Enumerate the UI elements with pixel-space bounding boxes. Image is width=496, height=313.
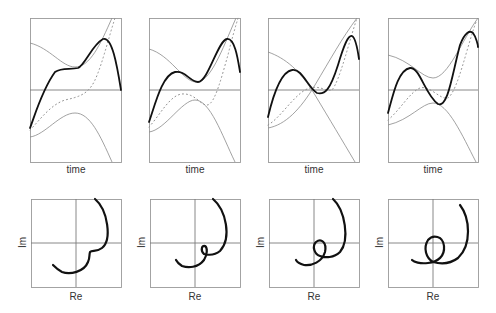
re-label-2: Re (175, 291, 215, 302)
im-label-3: Im (255, 237, 266, 248)
phase-panel-3 (269, 199, 360, 288)
im-label-1: Im (17, 237, 28, 248)
im-label-4: Im (374, 237, 385, 248)
time-label-4: time (403, 164, 463, 175)
phase-panel-4 (388, 199, 479, 288)
re-label-4: Re (413, 291, 453, 302)
im-label-2: Im (136, 237, 147, 248)
re-label-1: Re (56, 291, 96, 302)
time-panel-4 (388, 18, 479, 163)
time-label-1: time (46, 164, 106, 175)
phase-panel-2 (150, 199, 241, 288)
time-label-2: time (165, 164, 225, 175)
time-panel-1 (30, 18, 122, 163)
re-label-3: Re (294, 291, 334, 302)
time-panel-2 (149, 18, 241, 163)
figure-canvas (0, 0, 496, 313)
phase-panel-1 (31, 199, 122, 288)
time-label-3: time (284, 164, 344, 175)
time-panel-3 (268, 18, 360, 163)
